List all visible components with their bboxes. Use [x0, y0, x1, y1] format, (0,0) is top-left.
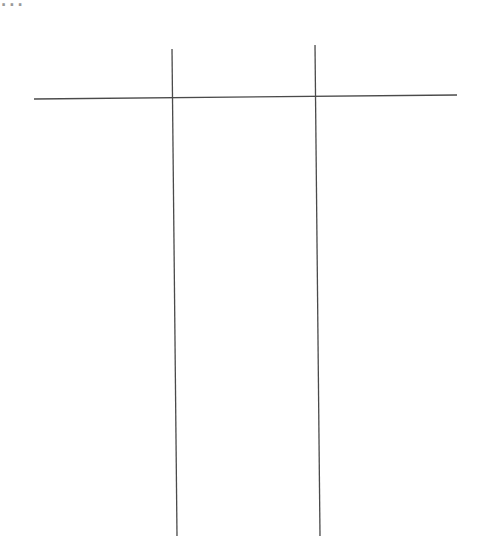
- horizontal-rule: [34, 95, 457, 99]
- vertical-rule-right: [315, 45, 320, 536]
- vertical-rule-left: [172, 49, 177, 536]
- table-rule-lines: [0, 0, 485, 537]
